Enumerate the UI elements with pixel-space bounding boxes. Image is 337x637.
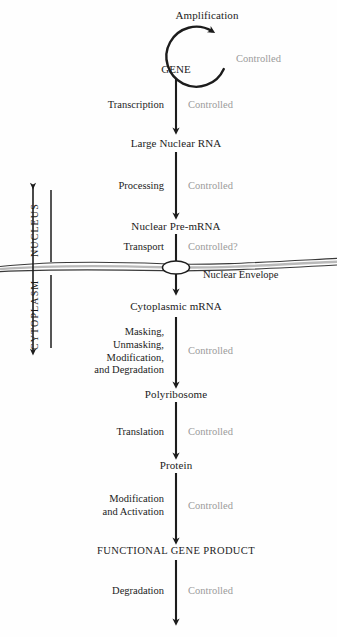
process-masking-line-3: Modification, [94,352,164,365]
control-modification: Controlled [188,500,233,512]
process-degradation: Degradation [112,585,164,597]
process-masking-line-1: Masking, [94,326,164,339]
node-gene: GENE [161,63,191,75]
compartment-label-nucleus: NUCLEUS [29,203,40,257]
process-modification: Modification and Activation [102,493,164,519]
process-modification-line-1: Modification [102,493,164,506]
process-masking-line-2: Unmasking, [94,339,164,352]
loop-control-label: Controlled [236,53,281,65]
control-processing: Controlled [188,180,233,192]
control-translation: Controlled [188,426,233,438]
control-masking: Controlled [188,345,233,357]
nuclear-envelope-label: Nuclear Envelope [203,269,279,281]
amplification-loop [164,25,226,89]
diagram-vector-layer [0,0,337,637]
control-transport: Controlled? [188,241,238,253]
control-transcription: Controlled [188,99,233,111]
process-masking-line-4: and Degradation [94,364,164,377]
control-degradation: Controlled [188,585,233,597]
process-processing: Processing [119,180,165,192]
nuclear-envelope [0,258,337,271]
process-transport: Transport [124,241,164,253]
gene-expression-diagram: Amplification Controlled GENE Large Nucl… [0,0,337,637]
node-functional-gene-product: FUNCTIONAL GENE PRODUCT [97,545,255,557]
compartment-label-cytoplasm: CYTOPLASM [29,280,40,350]
node-cytoplasmic-mrna: Cytoplasmic mRNA [130,300,222,312]
node-polyribosome: Polyribosome [145,388,207,400]
process-transcription: Transcription [108,99,164,111]
node-protein: Protein [160,459,192,471]
process-translation: Translation [117,426,164,438]
node-nuclear-pre-mrna: Nuclear Pre-mRNA [131,220,220,232]
nuclear-pore-icon [163,261,190,274]
process-modification-line-2: and Activation [102,506,164,519]
node-large-nuclear-rna: Large Nuclear RNA [131,137,222,149]
loop-label-amplification: Amplification [175,9,238,21]
process-masking: Masking, Unmasking, Modification, and De… [94,326,164,377]
